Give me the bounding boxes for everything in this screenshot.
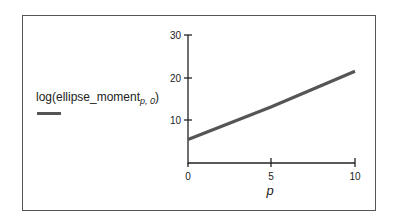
x-tick-label: 0 (185, 171, 191, 182)
series-line (188, 71, 355, 139)
y-tick-label: 30 (170, 30, 182, 41)
plot-area: 30 20 10 0 5 10 p (0, 0, 394, 222)
y-tick-label: 10 (170, 115, 182, 126)
y-tick-label: 20 (170, 73, 182, 84)
x-tick-label: 5 (268, 171, 274, 182)
x-axis-label: p (265, 183, 273, 198)
x-tick-label: 10 (349, 171, 361, 182)
